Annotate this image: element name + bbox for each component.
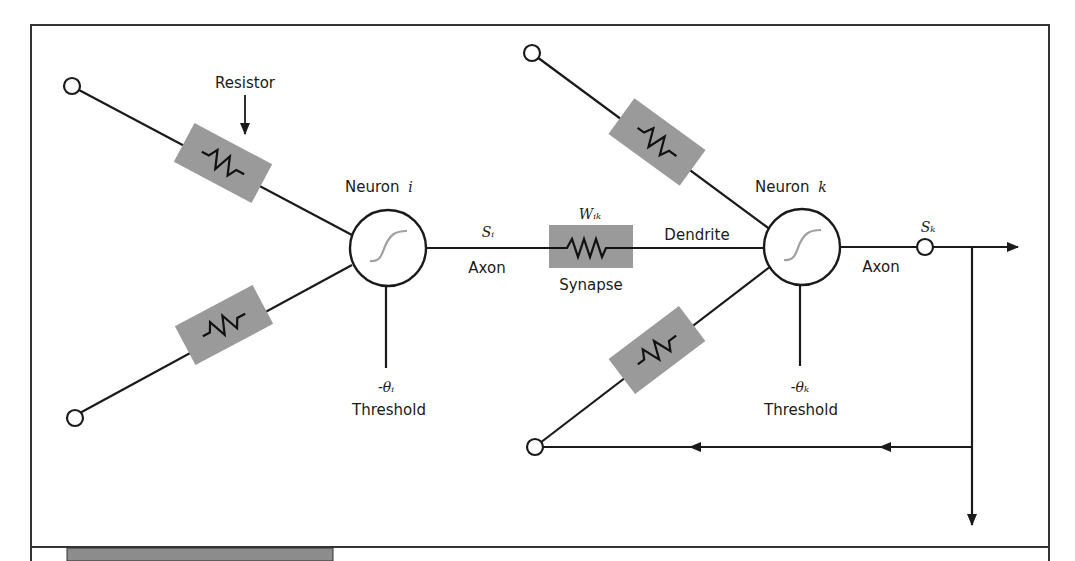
input-terminal-3	[524, 45, 540, 61]
resistor-label: Resistor	[215, 74, 276, 92]
dendrite-label: Dendrite	[664, 226, 729, 244]
resistor-top-right	[608, 98, 705, 185]
axon-label-1: Axon	[468, 259, 505, 277]
s-k-label: Sₖ	[921, 219, 936, 235]
footer-bar	[67, 548, 333, 561]
synapse	[549, 225, 633, 268]
input-terminal-2	[67, 410, 83, 426]
diagram-frame	[31, 25, 1049, 561]
neural-network-diagram: Resistor Neuron i -θᵢ Threshold Sᵢ Axon …	[0, 0, 1075, 561]
theta-i-label: -θᵢ	[378, 379, 394, 395]
w-ik-label: Wᵢₖ	[579, 206, 601, 222]
input-top-left	[64, 78, 352, 235]
neuron-i-label: Neuron i	[345, 178, 413, 196]
s-i-label: Sᵢ	[482, 224, 495, 240]
synapse-label: Synapse	[559, 276, 623, 294]
resistor-bottom-right	[609, 306, 706, 394]
input-bottom-left	[67, 265, 352, 426]
input-terminal-1	[64, 78, 80, 94]
theta-k-label: -θₖ	[791, 379, 809, 395]
input-top-right	[524, 45, 771, 230]
threshold-i-label: Threshold	[351, 401, 426, 419]
threshold-k-label: Threshold	[763, 401, 838, 419]
axon-label-2: Axon	[862, 258, 899, 276]
output-terminal-sk	[917, 239, 933, 255]
resistor-top-left	[174, 123, 272, 203]
resistor-bottom-left	[175, 285, 273, 365]
feedback-input-terminal	[527, 439, 543, 455]
neuron-k-label: Neuron k	[755, 178, 827, 196]
neuron-i	[350, 210, 426, 368]
neuron-k	[764, 209, 840, 366]
